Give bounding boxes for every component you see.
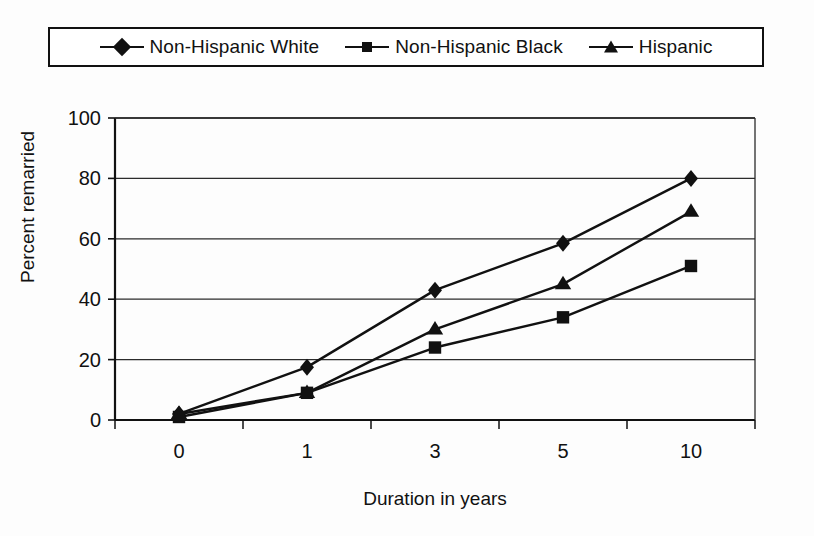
axis-lines: [115, 118, 755, 420]
series-line-hispanic: [179, 212, 691, 414]
diamond-marker-icon: [684, 170, 698, 187]
plot-canvas: [0, 0, 814, 536]
diamond-marker-icon: [300, 359, 314, 376]
triangle-marker-icon: [683, 203, 699, 217]
diamond-marker-icon: [428, 282, 442, 299]
series-markers: [171, 170, 699, 423]
x-axis-tick-marks: [115, 420, 755, 429]
chart-figure: Non-Hispanic White Non-Hispanic Black Hi…: [0, 0, 814, 536]
square-marker-icon: [685, 260, 697, 272]
triangle-marker-icon: [555, 276, 571, 290]
square-marker-icon: [429, 341, 441, 353]
diamond-marker-icon: [556, 235, 570, 252]
plot-area: Percent remarried Duration in years 1008…: [0, 0, 814, 536]
square-marker-icon: [557, 311, 569, 323]
